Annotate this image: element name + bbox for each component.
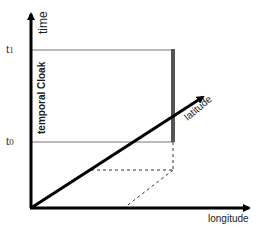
temporal-cloak-bar bbox=[171, 49, 175, 142]
time-axis-label: time bbox=[36, 11, 50, 34]
projection-diagonal-dashed bbox=[124, 170, 173, 208]
t1-tick-label: t1 bbox=[6, 42, 14, 57]
temporal-cloak-label: temporal Cloak bbox=[36, 62, 47, 134]
t0-tick-text: t0 bbox=[6, 134, 14, 148]
t1-tick-text: t1 bbox=[6, 42, 14, 56]
longitude-axis-label: longitude bbox=[208, 213, 249, 224]
t0-tick-label: t0 bbox=[6, 134, 14, 149]
latitude-axis bbox=[31, 97, 203, 208]
